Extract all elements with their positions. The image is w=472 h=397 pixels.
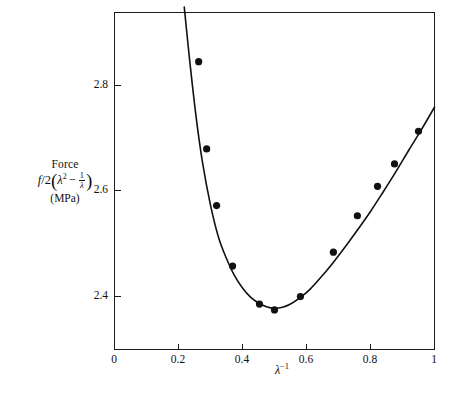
data-point — [374, 183, 381, 190]
xtick-label-0-8: 0.8 — [356, 353, 384, 365]
data-point — [415, 128, 422, 135]
fitted-curve — [184, 7, 434, 308]
data-point — [391, 160, 398, 167]
data-point — [297, 293, 304, 300]
xtick-label-0-2: 0.2 — [164, 353, 192, 365]
xtick-label-1: 1 — [420, 353, 448, 365]
data-point — [203, 145, 210, 152]
formula-fraction-denominator: λ — [79, 181, 85, 190]
data-point — [330, 249, 337, 256]
data-point — [229, 262, 236, 269]
data-point — [354, 212, 361, 219]
ytick-label-2-8: 2.8 — [80, 78, 108, 90]
x-axis-title: λ−1 — [252, 361, 312, 378]
formula-fraction: 1λ — [79, 171, 85, 190]
y-axis-title: Force f/2(λ2−1λ) (MPa) — [22, 158, 108, 205]
ytick-label-2-4: 2.4 — [80, 289, 108, 301]
data-point — [271, 306, 278, 313]
y-axis-title-force: Force — [22, 158, 108, 171]
data-point — [213, 202, 220, 209]
data-point — [256, 300, 263, 307]
y-axis-title-formula: f/2(λ2−1λ) — [22, 172, 108, 191]
xtick-label-0: 0 — [100, 353, 128, 365]
formula-close-paren: ) — [86, 170, 92, 191]
formula-minus: − — [67, 173, 78, 187]
y-axis-ticks — [115, 86, 121, 297]
axis-frame — [115, 13, 435, 350]
figure-container: 2.8 2.6 2.4 0 0.2 0.4 0.6 0.8 1 Force f/… — [0, 0, 472, 397]
data-point-group — [195, 58, 422, 313]
y-axis-title-units: (MPa) — [22, 192, 108, 205]
data-point — [195, 58, 202, 65]
x-axis-title-exponent: −1 — [280, 361, 289, 371]
x-axis-ticks — [115, 344, 435, 350]
